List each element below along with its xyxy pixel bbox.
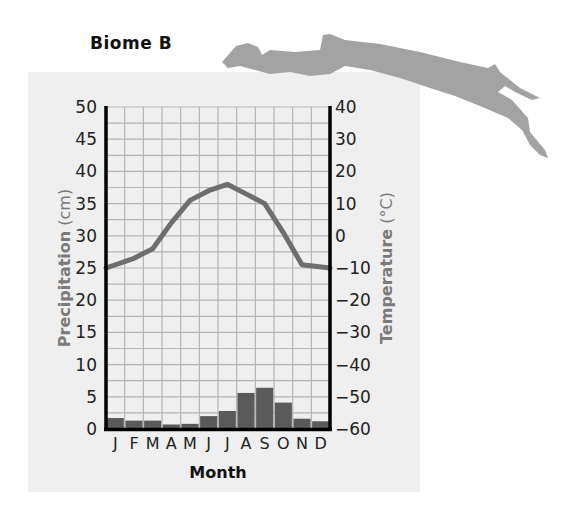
left-axis-ticks: 50454035302520151050	[75, 97, 97, 439]
y-axis-label-left: Precipitation (cm)	[55, 189, 74, 347]
right-tick-label: 10	[335, 194, 357, 214]
month-label: N	[296, 434, 308, 453]
month-label: F	[129, 434, 138, 453]
month-label: J	[112, 434, 118, 453]
left-tick-label: 45	[75, 129, 97, 149]
left-tick-label: 40	[75, 161, 97, 181]
left-tick-label: 25	[75, 258, 97, 278]
month-label: O	[277, 434, 290, 453]
precipitation-bar	[107, 418, 124, 429]
month-label: J	[205, 434, 211, 453]
month-label: A	[241, 434, 252, 453]
left-tick-label: 35	[75, 194, 97, 214]
right-tick-label: 30	[335, 129, 357, 149]
left-tick-label: 50	[75, 97, 97, 117]
left-tick-label: 5	[86, 387, 97, 407]
precipitation-bar	[275, 403, 292, 429]
right-tick-label: −40	[335, 355, 371, 375]
left-tick-label: 15	[75, 322, 97, 342]
left-tick-label: 20	[75, 290, 97, 310]
month-label: D	[315, 434, 327, 453]
climatogram: 50454035302520151050 403020100−10−20−30−…	[0, 0, 581, 521]
left-tick-label: 0	[86, 419, 97, 439]
precipitation-bar	[256, 388, 273, 429]
right-tick-label: −60	[335, 419, 371, 439]
left-tick-label: 10	[75, 355, 97, 375]
precipitation-bar	[200, 416, 217, 429]
right-tick-label: −50	[335, 387, 371, 407]
month-label: M	[183, 434, 197, 453]
x-axis-label: Month	[189, 463, 246, 482]
right-tick-label: 0	[335, 226, 346, 246]
left-tick-label: 30	[75, 226, 97, 246]
month-labels: JFMAMJJASOND	[112, 434, 327, 453]
right-tick-label: 20	[335, 161, 357, 181]
precipitation-bar	[293, 419, 310, 429]
right-tick-label: 40	[335, 97, 357, 117]
precipitation-bar	[125, 421, 142, 429]
month-label: S	[260, 434, 270, 453]
month-label: J	[224, 434, 230, 453]
right-tick-label: −30	[335, 322, 371, 342]
right-tick-label: −20	[335, 290, 371, 310]
precipitation-bar	[237, 393, 254, 429]
y-axis-label-right: Temperature (°C)	[377, 192, 396, 344]
precipitation-bar	[219, 411, 236, 429]
month-label: M	[146, 434, 160, 453]
month-label: A	[166, 434, 177, 453]
precipitation-bar	[144, 421, 161, 429]
grid-lines	[106, 107, 330, 429]
right-axis-ticks: 403020100−10−20−30−40−50−60	[335, 97, 371, 439]
right-tick-label: −10	[335, 258, 371, 278]
